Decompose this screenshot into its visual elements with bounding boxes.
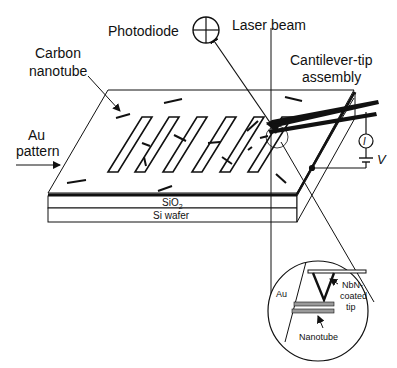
photodiode-icon — [193, 17, 219, 43]
inset-cantilever — [308, 270, 366, 273]
ammeter-icon — [359, 134, 373, 148]
voltage-symbol: V — [377, 152, 387, 167]
current-symbol: I — [363, 136, 366, 147]
carbon-label-line2: nanotube — [29, 63, 88, 79]
cantilever-label-line2: assembly — [302, 69, 361, 85]
afm-nanotube-diagram: Photodiode Laser beam Cantilever-tip ass… — [0, 0, 397, 368]
contact-dot — [310, 166, 315, 171]
inset-nanotube-label: Nanotube — [299, 332, 338, 342]
au-label-line2: pattern — [16, 143, 60, 159]
inset-nanotube-top — [294, 302, 334, 306]
inset-nanotube-bottom — [292, 309, 334, 313]
inset-nbn-label-line1: NbN- — [342, 280, 363, 290]
carbon-label-line1: Carbon — [35, 45, 81, 61]
inset-nbn-label-line2: coated — [340, 291, 367, 301]
au-label-line1: Au — [28, 127, 45, 143]
inset-nbn-label-line3: tip — [346, 302, 356, 312]
inset-au-label: Au — [276, 289, 287, 299]
si-wafer-label: Si wafer — [153, 210, 190, 221]
laser-beam-label: Laser beam — [232, 17, 306, 33]
nanotube — [208, 142, 220, 143]
cantilever-label-line1: Cantilever-tip — [290, 52, 373, 68]
photodiode-label: Photodiode — [108, 23, 179, 39]
